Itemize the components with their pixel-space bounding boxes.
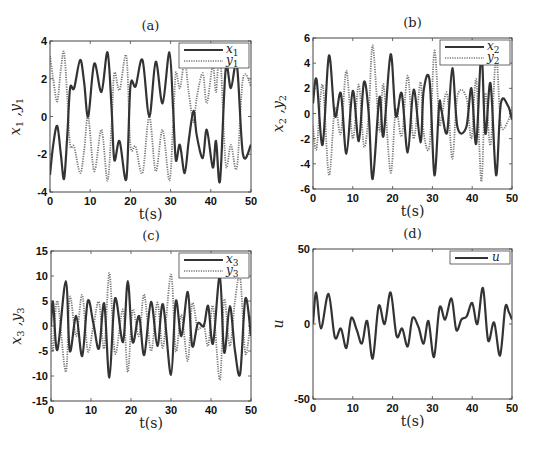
series-line-u bbox=[313, 288, 512, 359]
x-axis-label: t(s) bbox=[401, 413, 425, 429]
series-line-x3 bbox=[51, 276, 251, 378]
legend-label-u: u bbox=[492, 250, 500, 264]
series-group bbox=[313, 45, 512, 181]
x-tick-label: 40 bbox=[205, 195, 217, 207]
y-tick-label: -2 bbox=[300, 133, 310, 145]
x-tick-label: 30 bbox=[426, 192, 438, 204]
y-tick-label: -6 bbox=[300, 183, 310, 195]
x-tick-label: 0 bbox=[48, 404, 54, 416]
y-tick-label: 4 bbox=[304, 57, 311, 69]
x-tick-label: 20 bbox=[386, 402, 398, 414]
x-tick-label: 50 bbox=[506, 402, 518, 414]
y-tick-label: -10 bbox=[32, 370, 48, 382]
y-tick-label: 0 bbox=[304, 108, 310, 120]
x-tick-label: 10 bbox=[347, 192, 359, 204]
y-tick-label: 50 bbox=[298, 243, 310, 255]
x-tick-label: 20 bbox=[386, 192, 398, 204]
x-tick-label: 40 bbox=[205, 404, 217, 416]
y-tick-label: -5 bbox=[38, 345, 48, 357]
legend: x1y1 bbox=[179, 42, 249, 69]
x-tick-label: 50 bbox=[245, 404, 257, 416]
y-tick-label: 6 bbox=[304, 32, 310, 44]
y-tick-label: -15 bbox=[32, 395, 48, 407]
y-axis-label: x1 ,y1 bbox=[7, 98, 25, 135]
x-tick-label: 10 bbox=[84, 195, 96, 207]
subplot-title: (b) bbox=[403, 15, 421, 30]
x-tick-label: 40 bbox=[466, 402, 478, 414]
series-group bbox=[50, 50, 251, 182]
y-tick-label: 10 bbox=[36, 270, 48, 282]
y-tick-label: 5 bbox=[42, 295, 48, 307]
series-line-x2 bbox=[313, 53, 512, 179]
subplot-c: (c)01020304050-15-10-5051015t(s)x3 ,y3x3… bbox=[8, 228, 257, 431]
figure: (a)01020304050-4-2024t(s)x1 ,y1x1y1(b)01… bbox=[0, 0, 538, 449]
subplot-title: (d) bbox=[403, 226, 421, 241]
legend: x3y3 bbox=[179, 252, 249, 279]
y-tick-label: -2 bbox=[37, 148, 47, 160]
series-group bbox=[313, 288, 512, 359]
x-axis-label: t(s) bbox=[139, 206, 163, 222]
x-tick-label: 50 bbox=[245, 195, 257, 207]
y-tick-label: 0 bbox=[304, 318, 310, 330]
x-tick-label: 0 bbox=[47, 195, 53, 207]
subplot-b: (b)01020304050-6-4-20246t(s)x2 ,y2x2y2 bbox=[270, 15, 518, 219]
y-axis-label: x3 ,y3 bbox=[8, 307, 26, 344]
legend: x2y2 bbox=[440, 39, 510, 66]
y-axis-label: u bbox=[270, 319, 286, 328]
x-tick-label: 40 bbox=[466, 192, 478, 204]
y-tick-label: -4 bbox=[37, 186, 48, 198]
subplot-title: (c) bbox=[142, 228, 159, 243]
y-tick-label: 2 bbox=[41, 73, 47, 85]
series-group bbox=[51, 273, 251, 380]
y-axis-label: x2 ,y2 bbox=[270, 95, 288, 132]
x-tick-label: 30 bbox=[164, 195, 176, 207]
x-tick-label: 30 bbox=[165, 404, 177, 416]
legend: u bbox=[450, 250, 510, 264]
x-tick-label: 20 bbox=[125, 404, 137, 416]
y-tick-label: 0 bbox=[42, 320, 48, 332]
y-tick-label: -50 bbox=[294, 393, 310, 405]
subplot-title: (a) bbox=[142, 18, 160, 33]
x-axis-label: t(s) bbox=[401, 203, 425, 219]
x-tick-label: 0 bbox=[310, 402, 316, 414]
x-tick-label: 20 bbox=[124, 195, 136, 207]
subplot-d: (d)01020304050-50050t(s)uu bbox=[270, 226, 518, 429]
axes-box bbox=[313, 249, 512, 399]
y-tick-label: 2 bbox=[304, 82, 310, 94]
x-tick-label: 10 bbox=[347, 402, 359, 414]
y-tick-label: 4 bbox=[41, 35, 48, 47]
y-tick-label: 0 bbox=[41, 111, 47, 123]
y-tick-label: 15 bbox=[36, 245, 48, 257]
x-tick-label: 10 bbox=[85, 404, 97, 416]
x-tick-label: 30 bbox=[426, 402, 438, 414]
x-tick-label: 0 bbox=[310, 192, 316, 204]
x-tick-label: 50 bbox=[506, 192, 518, 204]
y-tick-label: -4 bbox=[300, 158, 311, 170]
subplot-a: (a)01020304050-4-2024t(s)x1 ,y1x1y1 bbox=[7, 18, 257, 222]
x-axis-label: t(s) bbox=[139, 415, 163, 431]
